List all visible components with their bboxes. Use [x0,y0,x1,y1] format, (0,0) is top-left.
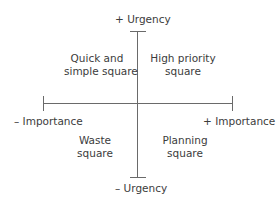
horizontal-axis [43,103,233,104]
quadrant-high-priority: High priority square [150,52,216,78]
minus-importance-label: – Importance [14,115,83,128]
vertical-axis [137,31,138,178]
quadrant-quick-and-simple: Quick and simple square [64,52,130,78]
vertical-axis-bottom-tick [130,177,146,178]
quadrant-waste-line1: Waste [74,134,116,147]
minus-urgency-label: – Urgency [115,182,167,195]
quadrant-waste-line2: square [74,147,116,160]
plus-importance-label: + Importance [203,115,275,128]
quadrant-waste: Waste square [74,134,116,160]
vertical-axis-top-tick [130,31,146,32]
quadrant-planning: Planning square [160,134,210,160]
plus-urgency-label: + Urgency [115,13,171,26]
quadrant-planning-line1: Planning [160,134,210,147]
quadrant-quick-and-simple-line2: simple square [64,65,130,78]
horizontal-axis-left-tick [43,96,44,111]
quadrant-high-priority-line1: High priority [150,52,216,65]
quadrant-high-priority-line2: square [150,65,216,78]
quadrant-planning-line2: square [160,147,210,160]
quadrant-quick-and-simple-line1: Quick and [64,52,130,65]
horizontal-axis-right-tick [232,96,233,111]
